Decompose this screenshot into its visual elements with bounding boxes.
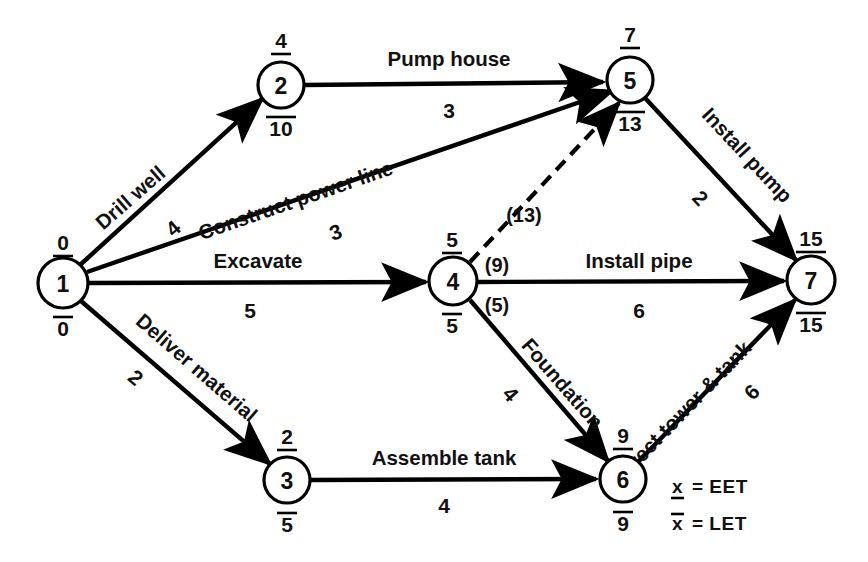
- edge-duration-erect-tower-and-tank: 6: [739, 380, 764, 404]
- edge-label-pump-house: Pump house: [387, 47, 510, 70]
- edge-duration-install-pipe: 6: [633, 299, 645, 322]
- network-diagram-canvas: Drill well 4 Construct power line 3 Exca…: [0, 0, 868, 562]
- node-3-let: 5: [281, 513, 293, 536]
- legend: x = EET x = LET: [671, 476, 748, 534]
- node-2-let: 10: [269, 117, 292, 140]
- edge-duration-excavate: 5: [244, 299, 256, 322]
- edge-deliver-material: Deliver material 2: [81, 301, 270, 464]
- branch-label-5: (5): [485, 294, 509, 316]
- node-7[interactable]: 7 15 15: [787, 227, 835, 336]
- node-1-label: 1: [57, 271, 70, 297]
- edge-label-excavate: Excavate: [214, 249, 303, 272]
- node-5-let: 13: [618, 112, 641, 135]
- network-diagram: Drill well 4 Construct power line 3 Exca…: [0, 0, 868, 562]
- edge-duration-pump-house: 3: [443, 99, 455, 122]
- edge-label-install-pipe: Install pipe: [585, 249, 692, 272]
- node-4-label: 4: [447, 269, 460, 295]
- edge-assemble-tank: Assemble tank 4: [310, 446, 596, 517]
- edge-label-deliver-material: Deliver material: [132, 309, 262, 427]
- edge-excavate: Excavate 5: [88, 249, 426, 322]
- node-3-eet: 2: [281, 425, 293, 448]
- node-4-let: 5: [446, 314, 458, 337]
- node-2-label: 2: [275, 73, 288, 99]
- node-6-let: 9: [617, 512, 629, 535]
- node-3-label: 3: [281, 468, 294, 494]
- branch-labels-layer: (13) (9) (5): [485, 204, 542, 316]
- edge-line-foundation: [470, 300, 608, 461]
- edge-line-assemble-tank: [310, 479, 596, 480]
- edge-dummy-4-5: [470, 103, 619, 262]
- node-5-eet: 7: [624, 23, 636, 46]
- edge-erect-tower-and-tank: Erect tower & tank 6: [614, 300, 795, 482]
- legend-let-symbol: x: [672, 513, 683, 534]
- edge-duration-construct-power-line: 3: [326, 219, 345, 245]
- legend-eet-text: = EET: [692, 476, 748, 497]
- edge-label-assemble-tank: Assemble tank: [372, 446, 517, 469]
- edge-drill-well: Drill well 4: [80, 99, 262, 265]
- node-7-eet: 15: [799, 227, 823, 250]
- node-6-eet: 9: [617, 424, 629, 447]
- edge-label-foundation: Foundation: [517, 333, 608, 432]
- edge-line-install-pipe: [477, 281, 784, 282]
- node-6-label: 6: [617, 467, 630, 493]
- node-7-label: 7: [805, 268, 818, 294]
- edge-label-drill-well: Drill well: [91, 161, 170, 234]
- node-1-let: 0: [57, 317, 69, 340]
- node-4[interactable]: 4 5 5: [429, 228, 477, 337]
- edge-line-excavate: [88, 282, 426, 283]
- edge-line-deliver-material: [81, 301, 270, 464]
- node-1-eet: 0: [57, 231, 69, 254]
- node-3[interactable]: 3 2 5: [264, 425, 310, 536]
- node-5[interactable]: 5 7 13: [607, 23, 653, 135]
- legend-eet-symbol: x: [672, 476, 683, 497]
- edge-foundation: Foundation 4: [470, 300, 608, 461]
- node-2-eet: 4: [275, 29, 287, 52]
- edge-duration-assemble-tank: 4: [438, 494, 450, 517]
- branch-label-13: (13): [506, 204, 542, 226]
- edge-label-construct-power-line: Construct power line: [195, 156, 395, 244]
- edge-duration-install-pump: 2: [688, 186, 713, 210]
- legend-row-let: x = LET: [671, 513, 747, 534]
- node-7-let: 15: [799, 313, 823, 336]
- node-1[interactable]: 1 0 0: [38, 231, 88, 340]
- legend-let-text: = LET: [692, 513, 747, 534]
- node-2[interactable]: 2 4 10: [258, 29, 304, 140]
- edge-line-dummy-4-5: [470, 103, 619, 262]
- edge-label-install-pump: Install pump: [698, 103, 797, 207]
- edge-duration-deliver-material: 2: [124, 365, 148, 390]
- edge-duration-foundation: 4: [498, 382, 523, 406]
- legend-row-eet: x = EET: [671, 476, 748, 498]
- branch-label-9: (9): [485, 254, 509, 276]
- edge-line-drill-well: [80, 99, 262, 265]
- edge-line-pump-house: [304, 82, 603, 85]
- edge-install-pipe: Install pipe 6: [477, 249, 784, 322]
- edge-install-pump: Install pump 2: [645, 98, 797, 260]
- node-4-eet: 5: [446, 228, 458, 251]
- node-5-label: 5: [624, 68, 637, 94]
